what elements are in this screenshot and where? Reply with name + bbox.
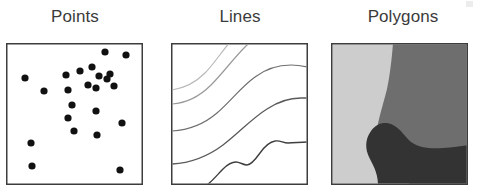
point-marker bbox=[95, 72, 102, 79]
point-marker bbox=[28, 162, 35, 169]
point-marker bbox=[62, 71, 69, 78]
point-marker bbox=[92, 84, 99, 91]
points-plot-svg bbox=[6, 43, 143, 185]
point-marker bbox=[118, 119, 125, 126]
point-marker bbox=[40, 87, 47, 94]
panel-title-lines: Lines bbox=[165, 6, 315, 28]
point-marker bbox=[88, 63, 95, 70]
points-frame bbox=[7, 44, 143, 185]
point-marker bbox=[21, 74, 28, 81]
polygon-region-group bbox=[331, 43, 468, 185]
panel-polygons: Polygons bbox=[325, 0, 475, 195]
point-marker bbox=[92, 107, 99, 114]
point-marker bbox=[64, 86, 71, 93]
point-marker bbox=[76, 67, 83, 74]
point-marker bbox=[93, 131, 100, 138]
point-marker bbox=[84, 81, 91, 88]
panel-title-points: Points bbox=[0, 6, 150, 28]
polygons-plot-box bbox=[331, 43, 468, 185]
point-marker bbox=[101, 48, 108, 55]
lines-plot-box bbox=[171, 43, 308, 185]
point-marker bbox=[70, 127, 77, 134]
panel-points: Points bbox=[0, 0, 150, 195]
lines-plot-svg bbox=[171, 43, 308, 185]
panel-title-polygons: Polygons bbox=[325, 6, 481, 28]
point-marker bbox=[27, 139, 34, 146]
points-plot-box bbox=[6, 43, 143, 185]
panel-lines: Lines bbox=[165, 0, 315, 195]
point-marker bbox=[110, 82, 117, 89]
polygons-plot-svg bbox=[331, 43, 468, 185]
point-marker bbox=[122, 51, 129, 58]
geometry-types-figure: Points Lines bbox=[0, 0, 481, 195]
point-marker bbox=[68, 101, 75, 108]
point-marker bbox=[64, 114, 71, 121]
point-marker bbox=[116, 166, 123, 173]
point-marker bbox=[106, 70, 113, 77]
